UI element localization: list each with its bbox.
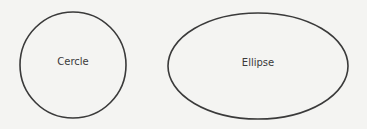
circle-label: Cercle xyxy=(57,56,88,67)
diagram-canvas: Cercle Ellipse xyxy=(0,0,367,129)
ellipse-shape: Ellipse xyxy=(168,13,348,119)
ellipse-label: Ellipse xyxy=(242,57,274,68)
circle-shape: Cercle xyxy=(20,12,126,118)
